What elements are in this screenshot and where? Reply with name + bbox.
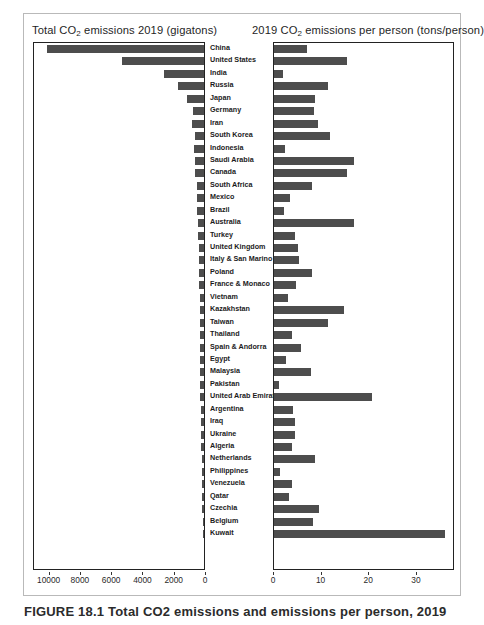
bar-total-emissions bbox=[200, 331, 204, 339]
bar-row bbox=[34, 105, 204, 117]
bar-per-person-emissions bbox=[274, 157, 354, 165]
bar-per-person-emissions bbox=[274, 331, 292, 339]
country-label: United Kingdom bbox=[210, 241, 272, 253]
bar-total-emissions bbox=[200, 319, 204, 327]
country-label: France & Monaco bbox=[210, 278, 272, 290]
bar-total-emissions bbox=[199, 244, 204, 252]
bar-row bbox=[274, 230, 453, 242]
bar-per-person-emissions bbox=[274, 306, 344, 314]
bar-row bbox=[274, 143, 453, 155]
bar-total-emissions bbox=[202, 455, 204, 463]
figure-outer-box: Total CO2 emissions 2019 (gigatons) 2019… bbox=[23, 13, 461, 596]
top-cropped-text-band: · · · bbox=[0, 0, 484, 10]
axis-tick-label: 8000 bbox=[71, 575, 90, 585]
bar-per-person-emissions bbox=[274, 145, 285, 153]
country-label: South Korea bbox=[210, 129, 272, 141]
right-title-subscript: 2 bbox=[297, 29, 302, 38]
bar-total-emissions bbox=[200, 344, 204, 352]
top-partial-text: · · · bbox=[26, 0, 46, 3]
bar-row bbox=[34, 254, 204, 266]
country-label: China bbox=[210, 42, 272, 54]
axis-tick-label: 30 bbox=[411, 575, 420, 585]
country-label: Russia bbox=[210, 79, 272, 91]
bar-per-person-emissions bbox=[274, 207, 284, 215]
right-plot-area bbox=[273, 42, 454, 570]
bar-per-person-emissions bbox=[274, 182, 312, 190]
country-label: Spain & Andorra bbox=[210, 341, 272, 353]
axis-tick-label: 10000 bbox=[37, 575, 60, 585]
bar-row bbox=[34, 478, 204, 490]
bar-total-emissions bbox=[197, 182, 204, 190]
bar-row bbox=[274, 379, 453, 391]
bar-row bbox=[34, 491, 204, 503]
bar-row bbox=[34, 155, 204, 167]
bar-row bbox=[34, 342, 204, 354]
country-label: Pakistan bbox=[210, 378, 272, 390]
bar-total-emissions bbox=[195, 157, 204, 165]
axis-tick-label: 20 bbox=[364, 575, 373, 585]
axis-tick-label: 0 bbox=[271, 575, 276, 585]
bar-row bbox=[274, 279, 453, 291]
country-label: Venezuela bbox=[210, 477, 272, 489]
bar-total-emissions bbox=[199, 281, 204, 289]
figure-caption-crop: FIGURE 18.1 Total CO2 emissions and emis… bbox=[24, 604, 474, 625]
bar-row bbox=[274, 43, 453, 55]
bar-total-emissions bbox=[195, 169, 204, 177]
bar-row bbox=[274, 167, 453, 179]
bar-row bbox=[274, 329, 453, 341]
bar-row bbox=[274, 416, 453, 428]
country-label: Indonesia bbox=[210, 142, 272, 154]
country-label-column: ChinaUnited StatesIndiaRussiaJapanGerman… bbox=[210, 42, 272, 570]
bar-total-emissions bbox=[187, 95, 204, 103]
bar-row bbox=[274, 55, 453, 67]
bar-row bbox=[34, 416, 204, 428]
bar-per-person-emissions bbox=[274, 244, 298, 252]
bar-row bbox=[274, 516, 453, 528]
bar-total-emissions bbox=[202, 505, 204, 513]
bar-total-emissions bbox=[197, 194, 204, 202]
country-label: Italy & San Marino bbox=[210, 253, 272, 265]
bar-row bbox=[34, 354, 204, 366]
bar-total-emissions bbox=[203, 518, 205, 526]
bar-row bbox=[274, 242, 453, 254]
bar-row bbox=[274, 503, 453, 515]
bar-total-emissions bbox=[200, 356, 204, 364]
right-panel-title: 2019 CO2 emissions per person (tons/pers… bbox=[252, 24, 484, 36]
bar-per-person-emissions bbox=[274, 281, 296, 289]
bar-row bbox=[34, 279, 204, 291]
bar-row bbox=[274, 118, 453, 130]
bar-row bbox=[34, 292, 204, 304]
bar-row bbox=[34, 528, 204, 540]
bar-row bbox=[274, 478, 453, 490]
bar-per-person-emissions bbox=[274, 120, 318, 128]
bar-row bbox=[34, 466, 204, 478]
axis-tick-label: 10 bbox=[316, 575, 325, 585]
country-label: Netherlands bbox=[210, 452, 272, 464]
bar-row bbox=[34, 379, 204, 391]
bar-row bbox=[34, 180, 204, 192]
bar-row bbox=[34, 453, 204, 465]
bar-per-person-emissions bbox=[274, 344, 301, 352]
bar-per-person-emissions bbox=[274, 431, 295, 439]
country-label: South Africa bbox=[210, 179, 272, 191]
figure-caption: FIGURE 18.1 Total CO2 emissions and emis… bbox=[24, 604, 447, 619]
bar-total-emissions bbox=[202, 493, 204, 501]
bar-total-emissions bbox=[47, 45, 204, 53]
bar-per-person-emissions bbox=[274, 368, 311, 376]
bar-per-person-emissions bbox=[274, 294, 288, 302]
bar-total-emissions bbox=[164, 70, 204, 78]
country-label: Thailand bbox=[210, 328, 272, 340]
bar-per-person-emissions bbox=[274, 530, 445, 538]
bar-total-emissions bbox=[200, 393, 204, 401]
bar-row bbox=[274, 105, 453, 117]
bar-row bbox=[274, 404, 453, 416]
left-title-pre: Total CO bbox=[32, 24, 76, 36]
bar-total-emissions bbox=[202, 468, 204, 476]
bar-row bbox=[34, 329, 204, 341]
bar-per-person-emissions bbox=[274, 455, 315, 463]
bar-row bbox=[274, 441, 453, 453]
bar-total-emissions bbox=[198, 219, 204, 227]
bar-total-emissions bbox=[200, 294, 204, 302]
bar-total-emissions bbox=[194, 145, 204, 153]
bar-per-person-emissions bbox=[274, 194, 290, 202]
